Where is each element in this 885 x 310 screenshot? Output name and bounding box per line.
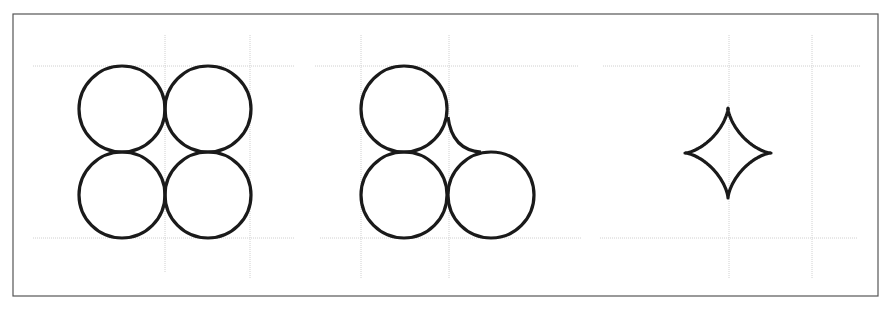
diagram-frame <box>13 14 878 296</box>
diagram-canvas <box>0 0 885 310</box>
